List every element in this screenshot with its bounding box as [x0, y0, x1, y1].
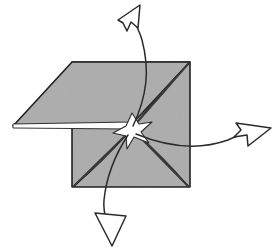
arrow-right-head	[234, 123, 271, 146]
arrow-up-head	[118, 5, 140, 31]
paper-fold-diagram	[0, 0, 274, 251]
arrow-down-head	[95, 213, 126, 246]
figure-root	[0, 0, 274, 251]
